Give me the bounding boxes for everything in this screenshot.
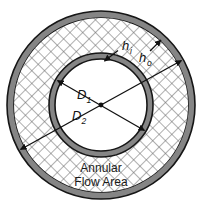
label-d2-base: D [72,108,81,123]
label-h-outer-base: h [139,50,146,65]
annular-flow-area-caption: Annular Flow Area [74,161,128,189]
label-d1-subscript: 1 [87,95,92,105]
label-h-inner-base: h [122,38,129,53]
caption-line-2: Flow Area [74,175,128,189]
center-point [99,103,104,108]
annulus-cross-section-drawing: h i h o D 1 D 2 Annular Flow Area [0,0,202,208]
label-d1-base: D [77,87,86,102]
annular-flow-area-figure: h i h o D 1 D 2 Annular Flow Area [0,0,202,208]
label-h-outer-subscript: o [147,58,152,68]
caption-line-1: Annular [80,161,121,175]
label-d2-subscript: 2 [81,116,87,126]
